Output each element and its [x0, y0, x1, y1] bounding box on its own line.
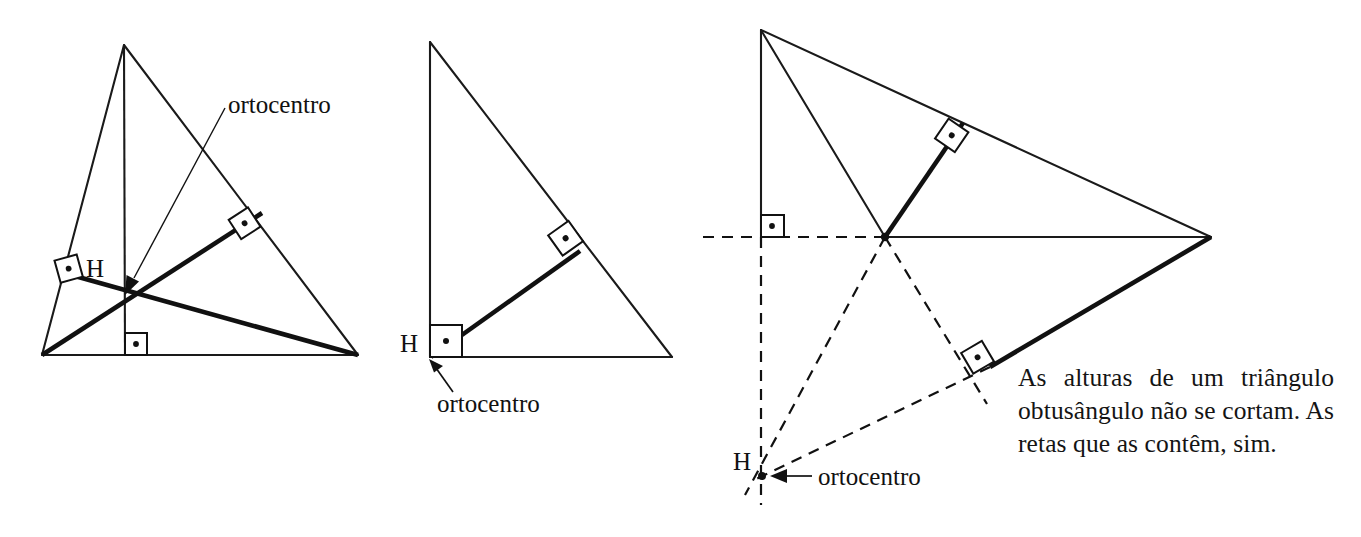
panel-acute-triangle: H ortocentro	[42, 45, 358, 355]
middle-altitude-line-extension	[885, 237, 987, 404]
caption-text: As alturas de um triângulo obtusângulo n…	[1018, 361, 1334, 460]
right-angle-mark-vertex	[430, 325, 462, 357]
triangle-side-hypotenuse	[430, 42, 672, 357]
panel-right-triangle: H ortocentro	[400, 42, 672, 417]
altitude-from-right-vertex	[990, 237, 1211, 367]
orthocenter-callout-label-right: ortocentro	[437, 390, 540, 417]
right-angle-mark-base-foot	[761, 215, 784, 237]
triangle-side-left	[761, 30, 885, 237]
orthocenter-arrowhead-obtuse	[770, 469, 787, 483]
orthocenter-arrowhead-right	[429, 359, 443, 373]
right-angle-mark-left-side	[54, 254, 82, 282]
right-angle-mark-right-side	[229, 207, 261, 239]
orthocenter-node-dot	[758, 472, 766, 480]
orthocenter-point-label-acute: H	[86, 255, 104, 282]
orthocenter-callout-label-obtuse: ortocentro	[818, 463, 921, 490]
orthocenter-point-label-right: H	[400, 330, 418, 357]
orthocenter-point-label-obtuse: H	[733, 448, 751, 475]
figure-root: H ortocentro H	[0, 0, 1361, 537]
vertex-node-dot	[881, 233, 889, 241]
orthocenter-callout-label-acute: ortocentro	[228, 91, 331, 118]
triangle-side-top	[761, 30, 1211, 237]
orthocenter-leader-line	[134, 108, 225, 278]
left-side-line-extension	[745, 237, 885, 495]
orthocenter-leader-line-right	[436, 368, 453, 392]
altitude-from-apex	[124, 45, 125, 355]
right-angle-mark-base	[125, 333, 147, 355]
